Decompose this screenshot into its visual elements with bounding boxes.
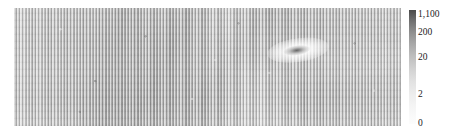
heatmap-vertical-stripes [14, 8, 401, 126]
heatmap-plot-area [14, 8, 401, 126]
colorbar-tick-label: 2 [418, 89, 423, 99]
colorbar-gradient-strip [409, 10, 416, 124]
colorbar-tick-labels: 1,1002002020 [418, 0, 454, 137]
colorbar-tick-label: 20 [418, 52, 428, 62]
figure-container: 1,1002002020 [0, 0, 454, 137]
heatmap-fine-stripes [14, 8, 401, 126]
heatmap-speckle-noise [14, 8, 401, 126]
colorbar-tick-label: 0 [418, 118, 423, 128]
colorbar-tick-label: 1,100 [418, 9, 439, 19]
heatmap-base-layer [14, 8, 401, 126]
colorbar [409, 10, 416, 124]
heatmap-row-noise [14, 8, 401, 126]
heatmap-bright-target-feature [266, 34, 331, 66]
colorbar-tick-label: 200 [418, 27, 432, 37]
